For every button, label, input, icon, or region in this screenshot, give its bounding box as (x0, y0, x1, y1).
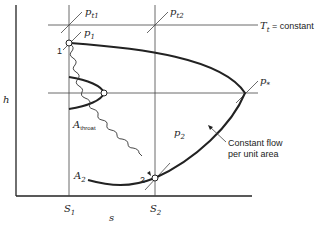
process-arrowhead (147, 171, 151, 176)
throat-area-label: Athroat (72, 119, 96, 131)
constant-flow-curve (70, 43, 245, 185)
state-2-label: 2 (140, 175, 145, 185)
annotation-line-2: per unit area (228, 149, 279, 159)
p1-label: p1 (84, 27, 95, 41)
y-axis-label: h (3, 94, 9, 105)
state-point-1 (66, 40, 72, 46)
p1-isobar (63, 32, 81, 50)
pstar-label: p* (260, 75, 270, 89)
s2-label: S2 (150, 203, 162, 217)
pt1-isobar (61, 12, 82, 33)
throat-point (101, 90, 107, 96)
process-path (70, 44, 142, 156)
p2-label: p2 (174, 127, 185, 141)
pt1-label: pt1 (85, 6, 99, 20)
a2-label: A2 (73, 170, 86, 184)
pt2-label: pt2 (170, 6, 184, 20)
tt-constant-label: Tt = constant (260, 20, 314, 34)
x-axis-label: s (109, 212, 114, 223)
annotation-line-1: Constant flow (228, 138, 283, 148)
hs-diagram: h s S1 S2 pt1 pt2 p1 p* p2 Tt = constant… (0, 0, 322, 228)
pt2-isobar (147, 12, 168, 33)
state-1-label: 1 (57, 46, 62, 56)
state-point-2 (152, 175, 158, 181)
s1-label: S1 (64, 203, 75, 217)
pstar-isobar (236, 81, 258, 103)
